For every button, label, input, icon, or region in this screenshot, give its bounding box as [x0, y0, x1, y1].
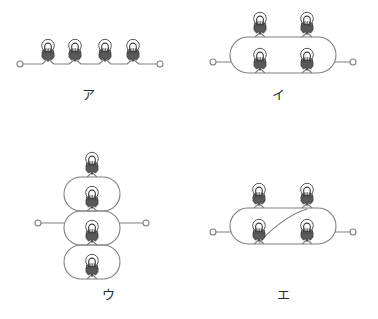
open-circle-terminal	[350, 59, 356, 65]
light-bulb-icon	[86, 186, 99, 208]
light-bulb-icon	[42, 39, 55, 61]
light-bulb-icon	[254, 48, 267, 70]
light-bulb-icon	[301, 12, 314, 34]
diagonal-bridge-wire	[260, 209, 308, 243]
circuit-diagram-canvas	[0, 0, 378, 319]
panel-i-lamps	[254, 12, 314, 70]
light-bulb-icon	[86, 152, 99, 174]
circuit-figure: ア イ ウ エ	[0, 0, 378, 319]
loop-outline	[230, 208, 336, 244]
open-circle-terminal	[17, 61, 23, 67]
loop-outline	[230, 37, 336, 73]
panel-e-wires	[216, 204, 350, 245]
light-bulb-icon	[86, 220, 99, 242]
panel-u-circuit	[35, 152, 149, 279]
panel-i-wires	[216, 33, 350, 74]
light-bulb-icon	[86, 254, 99, 276]
panel-label-i: イ	[258, 88, 298, 101]
panel-e-lamps	[253, 183, 314, 241]
light-bulb-icon	[301, 219, 314, 241]
open-circle-terminal	[350, 229, 356, 235]
panel-i-circuit	[210, 12, 356, 73]
light-bulb-icon	[127, 39, 140, 61]
light-bulb-icon	[301, 183, 314, 205]
open-circle-terminal	[143, 220, 149, 226]
light-bulb-icon	[253, 219, 266, 241]
open-circle-terminal	[157, 61, 163, 67]
open-circle-terminal	[35, 220, 41, 226]
panel-u-lamps	[86, 152, 99, 276]
open-circle-terminal	[210, 59, 216, 65]
light-bulb-icon	[253, 183, 266, 205]
open-circle-terminal	[210, 229, 216, 235]
panel-a-circuit	[17, 39, 163, 67]
light-bulb-icon	[301, 48, 314, 70]
light-bulb-icon	[69, 39, 82, 61]
light-bulb-icon	[99, 39, 112, 61]
light-bulb-icon	[254, 12, 267, 34]
panel-label-u: ウ	[88, 288, 128, 301]
panel-label-a: ア	[68, 88, 108, 101]
panel-e-circuit	[210, 183, 356, 244]
panel-a-lamps	[42, 39, 140, 61]
panel-label-e: エ	[263, 288, 303, 301]
